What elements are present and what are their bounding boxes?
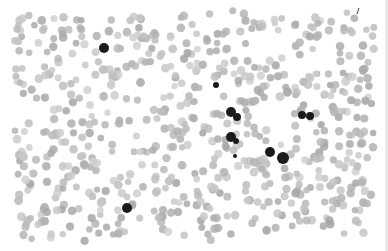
blood-smear-image [0,0,388,251]
